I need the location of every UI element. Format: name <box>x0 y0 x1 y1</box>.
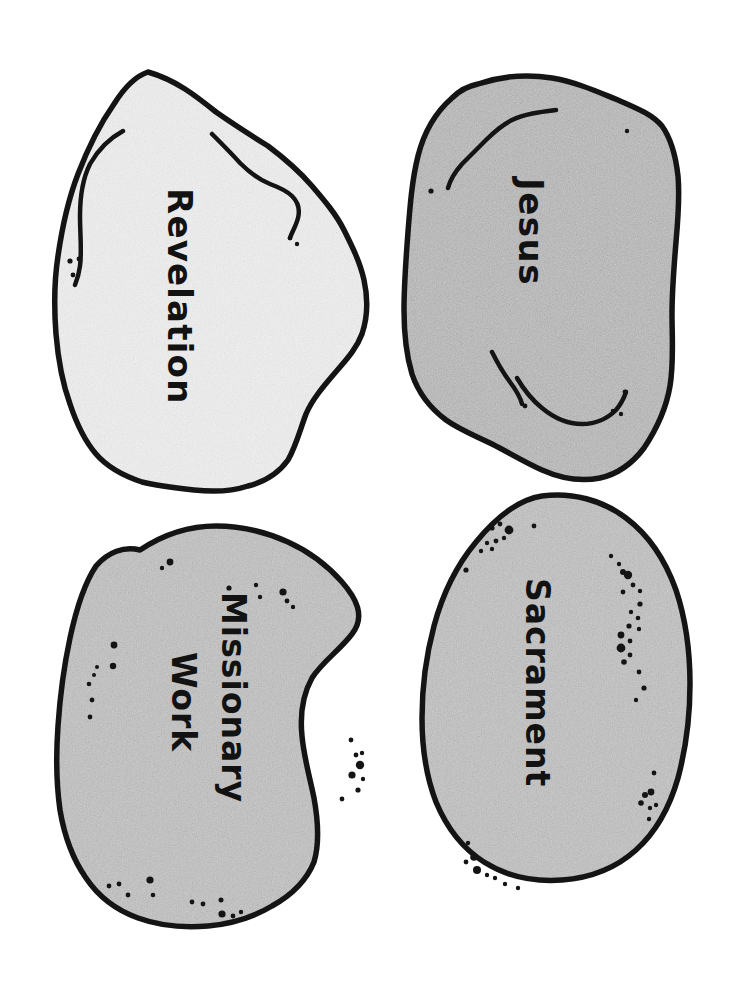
rock-revelation[interactable] <box>55 72 367 491</box>
rock-sacrament[interactable] <box>422 495 690 890</box>
rock-sacrament-body <box>422 495 690 880</box>
rock-jesus[interactable] <box>404 76 679 480</box>
rock-missionary-work[interactable] <box>57 526 366 927</box>
worksheet-page: Revelation Jesus Missionary Work Sacrame… <box>0 0 738 1006</box>
rocks-illustration <box>0 0 738 1006</box>
